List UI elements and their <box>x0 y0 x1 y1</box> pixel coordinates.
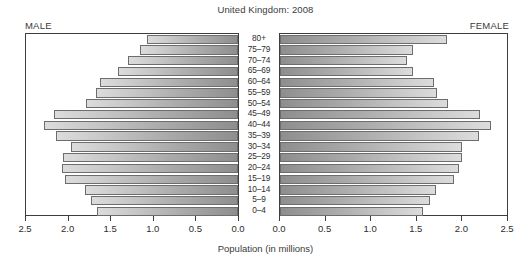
axis-tick-label: 2.0 <box>61 223 74 234</box>
bar-male-55_59 <box>96 88 238 97</box>
bar-male-35_39 <box>56 131 238 140</box>
age-label: 30–34 <box>239 141 279 152</box>
bar-row <box>280 174 507 185</box>
axis-tick <box>25 216 26 221</box>
age-label: 0–4 <box>239 205 279 216</box>
bar-male-50_54 <box>86 99 238 108</box>
bar-row <box>26 34 238 45</box>
male-x-axis: 2.52.01.51.00.50.0 <box>25 216 239 236</box>
population-pyramid-figure: United Kingdom: 2008 MALE FEMALE 80+75–7… <box>0 0 531 270</box>
axis-tick-label: 0.5 <box>189 223 202 234</box>
bar-female-5_9 <box>280 196 430 205</box>
bar-male-75_79 <box>140 45 238 54</box>
age-label: 70–74 <box>239 55 279 66</box>
bar-male-0_4 <box>97 207 238 216</box>
bar-male-40_44 <box>44 121 238 130</box>
male-plot-area <box>25 33 239 216</box>
age-label: 55–59 <box>239 87 279 98</box>
bar-row <box>26 152 238 163</box>
bar-female-60_64 <box>280 78 434 87</box>
bar-row <box>26 88 238 99</box>
bar-row <box>280 88 507 99</box>
bar-female-10_14 <box>280 185 436 194</box>
bar-male-60_64 <box>100 78 238 87</box>
axis-tick-label: 2.0 <box>455 223 468 234</box>
bar-male-80+ <box>147 35 238 44</box>
bar-male-30_34 <box>71 142 238 151</box>
age-label: 45–49 <box>239 108 279 119</box>
bar-row <box>26 131 238 142</box>
bar-female-45_49 <box>280 110 480 119</box>
bar-row <box>26 109 238 120</box>
bar-row <box>280 163 507 174</box>
axis-tick-label: 0.0 <box>231 223 244 234</box>
age-label: 50–54 <box>239 98 279 109</box>
bar-male-25_29 <box>63 153 238 162</box>
bar-row <box>280 120 507 131</box>
bar-row <box>26 195 238 206</box>
axis-tick <box>461 216 462 221</box>
bar-row <box>26 45 238 56</box>
bar-male-20_24 <box>62 164 238 173</box>
age-label: 65–69 <box>239 65 279 76</box>
female-panel-label: FEMALE <box>470 20 509 31</box>
age-label: 5–9 <box>239 194 279 205</box>
bar-row <box>280 142 507 153</box>
bar-row <box>26 99 238 110</box>
male-panel-label: MALE <box>25 20 52 31</box>
bar-female-0_4 <box>280 207 423 216</box>
axis-tick-label: 0.0 <box>272 223 285 234</box>
bar-row <box>280 131 507 142</box>
bar-row <box>280 34 507 45</box>
bar-row <box>26 56 238 67</box>
axis-tick-label: 1.5 <box>409 223 422 234</box>
axis-tick <box>325 216 326 221</box>
age-label: 40–44 <box>239 119 279 130</box>
bar-female-35_39 <box>280 131 479 140</box>
bar-row <box>26 66 238 77</box>
bar-male-15_19 <box>65 175 238 184</box>
bar-row <box>26 185 238 196</box>
axis-tick <box>110 216 111 221</box>
bar-female-50_54 <box>280 99 448 108</box>
bar-male-10_14 <box>85 185 238 194</box>
chart-title: United Kingdom: 2008 <box>0 4 531 15</box>
age-label: 80+ <box>239 33 279 44</box>
female-plot-area <box>279 33 508 216</box>
bar-row <box>280 66 507 77</box>
axis-tick-label: 1.5 <box>104 223 117 234</box>
x-axis-caption: Population (in millions) <box>0 243 531 254</box>
bar-row <box>280 45 507 56</box>
bar-row <box>280 77 507 88</box>
bar-row <box>26 174 238 185</box>
axis-tick <box>279 216 280 221</box>
axis-tick <box>195 216 196 221</box>
axis-tick <box>370 216 371 221</box>
age-label: 20–24 <box>239 162 279 173</box>
axis-tick <box>507 216 508 221</box>
bar-row <box>280 152 507 163</box>
axis-tick-label: 0.5 <box>318 223 331 234</box>
axis-tick <box>416 216 417 221</box>
bar-row <box>280 195 507 206</box>
bar-female-75_79 <box>280 45 413 54</box>
age-label: 60–64 <box>239 76 279 87</box>
age-label: 35–39 <box>239 130 279 141</box>
age-label: 25–29 <box>239 151 279 162</box>
bar-female-30_34 <box>280 142 462 151</box>
bar-male-5_9 <box>91 196 238 205</box>
axis-tick-label: 1.0 <box>146 223 159 234</box>
bar-row <box>26 163 238 174</box>
bar-female-15_19 <box>280 175 454 184</box>
age-group-labels: 80+75–7970–7465–6960–6455–5950–5445–4940… <box>239 33 279 216</box>
bar-female-70_74 <box>280 56 407 65</box>
axis-tick-label: 2.5 <box>500 223 513 234</box>
bar-female-25_29 <box>280 153 462 162</box>
axis-tick <box>68 216 69 221</box>
axis-tick <box>153 216 154 221</box>
bar-female-65_69 <box>280 67 413 76</box>
bar-row <box>26 120 238 131</box>
bar-female-80+ <box>280 35 447 44</box>
axis-tick <box>238 216 239 221</box>
bar-male-45_49 <box>54 110 238 119</box>
